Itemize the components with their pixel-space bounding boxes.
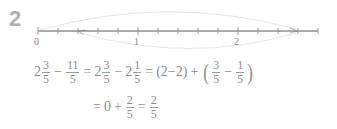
whole-difference: (2−2) xyxy=(156,64,187,80)
equation-line-2: = 0 + 25 = 25 xyxy=(90,94,159,120)
plus-sign: + xyxy=(190,64,198,80)
plus-sign: + xyxy=(114,99,122,115)
minus-sign: − xyxy=(114,64,122,80)
minus-sign: − xyxy=(54,64,62,80)
right-paren: ) xyxy=(247,60,253,84)
left-paren: ( xyxy=(204,60,210,84)
fraction: 15 xyxy=(133,59,141,85)
mixed-whole: 2 xyxy=(125,64,132,80)
fraction: 35 xyxy=(212,59,220,85)
mixed-whole: 2 xyxy=(34,64,41,80)
equals-sign: = xyxy=(93,99,101,115)
minus-sign: − xyxy=(224,64,232,80)
forward-jump-arc xyxy=(40,12,296,30)
tick-label-2: 2 xyxy=(234,36,239,47)
tick-label-0: 0 xyxy=(34,36,39,47)
tick-label-1: 1 xyxy=(134,36,139,47)
equals-sign: = xyxy=(138,99,146,115)
mixed-whole: 2 xyxy=(94,64,101,80)
equation-line-1: 2 35 − 115 = 2 35 − 2 15 = (2−2) + ( 35 … xyxy=(34,59,255,85)
result-fraction: 25 xyxy=(150,94,158,120)
fraction: 25 xyxy=(126,94,134,120)
equals-sign: = xyxy=(145,64,153,80)
fraction: 115 xyxy=(66,59,80,85)
backward-jump-arc xyxy=(80,33,296,49)
fraction: 15 xyxy=(236,59,244,85)
equals-sign: = xyxy=(83,64,91,80)
fraction: 35 xyxy=(102,59,110,85)
fraction: 35 xyxy=(42,59,50,85)
zero: 0 xyxy=(104,99,111,115)
number-line xyxy=(0,0,337,60)
